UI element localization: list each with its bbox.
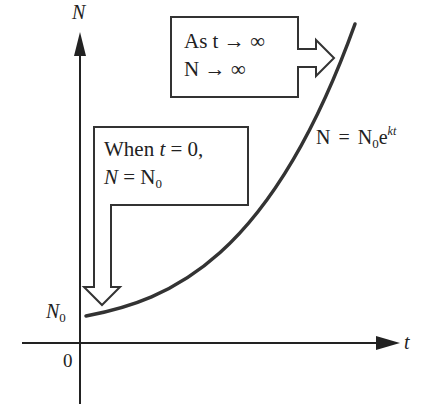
exponential-growth-diagram: N t 0 N0 N=N0ekt As t → ∞ N → ∞ When t =… xyxy=(0,0,440,414)
x-axis-label: t xyxy=(404,331,410,353)
x-axis-arrowhead-icon xyxy=(376,336,400,350)
callout-infinity-line2: N → ∞ xyxy=(184,57,246,81)
callout-initial-line1: When t = 0, xyxy=(104,137,203,161)
y-intercept-label: N0 xyxy=(45,300,66,325)
curve-equation-label: N=N0ekt xyxy=(316,124,397,151)
y-axis-label: N xyxy=(71,1,87,23)
callout-initial-line2: N = N0 xyxy=(103,165,162,191)
origin-label: 0 xyxy=(63,350,73,371)
y-axis-arrowhead-icon xyxy=(74,32,86,56)
callout-infinity-line1: As t → ∞ xyxy=(184,29,265,53)
